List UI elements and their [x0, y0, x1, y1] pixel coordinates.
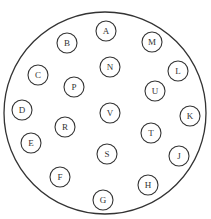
node-l: L: [168, 61, 188, 81]
node-b: B: [57, 33, 77, 53]
node-label: C: [35, 70, 41, 80]
node-label: G: [100, 195, 107, 205]
node-e: E: [21, 133, 41, 153]
node-n: N: [100, 57, 120, 77]
node-a: A: [96, 21, 116, 41]
circle-diagram: ABMNCLPUDVKRTESJFHG: [0, 0, 211, 219]
node-g: G: [93, 190, 113, 210]
node-f: F: [50, 167, 70, 187]
node-h: H: [138, 175, 158, 195]
node-d: D: [12, 100, 32, 120]
node-t: T: [141, 123, 161, 143]
node-label: A: [103, 26, 110, 36]
node-label: T: [148, 128, 154, 138]
node-label: V: [107, 108, 114, 118]
node-c: C: [28, 65, 48, 85]
node-label: L: [175, 66, 181, 76]
node-label: H: [145, 180, 152, 190]
node-label: B: [64, 38, 70, 48]
node-p: P: [64, 77, 84, 97]
node-label: J: [177, 151, 181, 161]
node-label: S: [104, 149, 109, 159]
node-group: ABMNCLPUDVKRTESJFHG: [12, 21, 200, 210]
node-r: R: [55, 117, 75, 137]
node-label: M: [148, 37, 156, 47]
node-label: F: [57, 172, 62, 182]
node-m: M: [142, 32, 162, 52]
outer-boundary-circle: [4, 12, 206, 214]
node-label: D: [19, 105, 26, 115]
node-u: U: [145, 81, 165, 101]
node-label: U: [152, 86, 159, 96]
node-label: E: [28, 138, 34, 148]
node-label: P: [71, 82, 76, 92]
node-v: V: [100, 103, 120, 123]
node-k: K: [180, 106, 200, 126]
node-label: K: [187, 111, 194, 121]
node-label: R: [62, 122, 68, 132]
node-j: J: [169, 146, 189, 166]
node-s: S: [97, 144, 117, 164]
node-label: N: [107, 62, 114, 72]
